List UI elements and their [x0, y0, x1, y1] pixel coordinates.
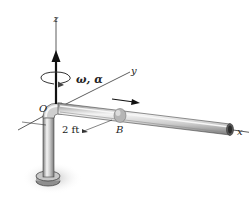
- motion-arrow: [112, 99, 134, 102]
- collar-b: [114, 109, 126, 123]
- z-axis-label: z: [53, 14, 59, 24]
- motion-arrowhead-icon: [131, 99, 140, 105]
- x-axis-label: x: [237, 126, 243, 137]
- vector-arrowhead-icon: [52, 50, 61, 62]
- vertical-pipe: [43, 115, 54, 177]
- dimension-line: [22, 122, 46, 125]
- point-b-label: B: [115, 124, 123, 135]
- rotating-pipe-diagram: z y x O B ω, α 2 ft: [0, 0, 249, 206]
- origin-label: O: [39, 103, 47, 114]
- y-axis-label: y: [130, 65, 137, 76]
- dimension-label: 2 ft: [62, 124, 79, 135]
- rotation-label: ω, α: [76, 73, 103, 86]
